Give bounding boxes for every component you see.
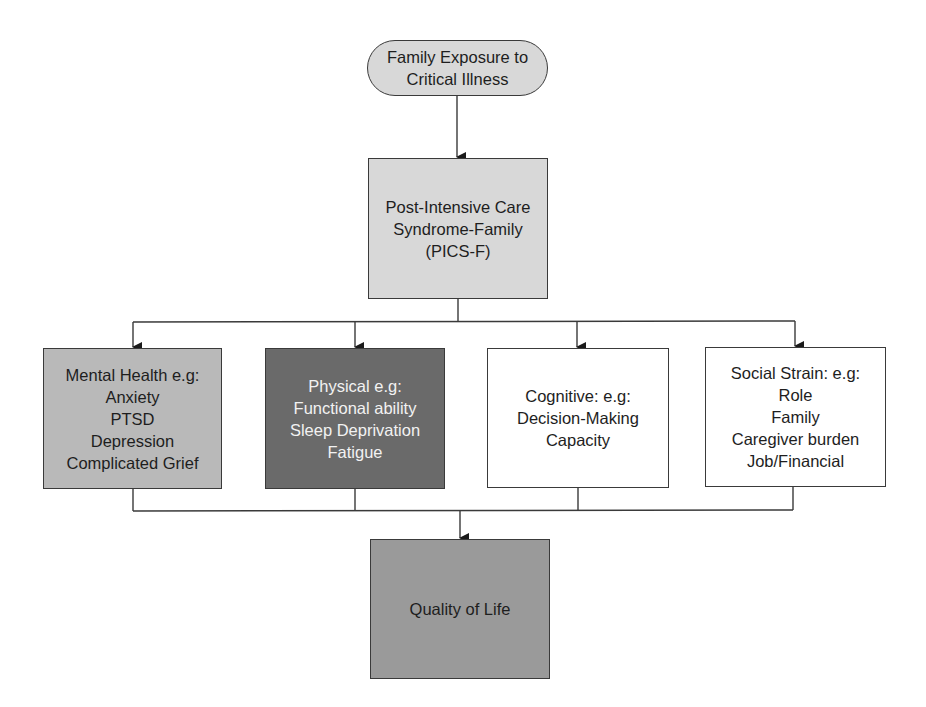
node-text: Role bbox=[779, 384, 813, 406]
node-text: Social Strain: e.g: bbox=[731, 362, 860, 384]
node-text: PTSD bbox=[110, 408, 154, 430]
node-text: Physical e.g: bbox=[308, 375, 402, 397]
node-text: Cognitive: e.g: bbox=[525, 385, 630, 407]
node-text: Sleep Deprivation bbox=[290, 419, 420, 441]
pics-f-node: Post-Intensive Care Syndrome-Family (PIC… bbox=[368, 158, 548, 299]
node-text: Family bbox=[771, 406, 820, 428]
physical-node: Physical e.g: Functional ability Sleep D… bbox=[265, 348, 445, 489]
node-text: Post-Intensive Care bbox=[386, 196, 531, 218]
node-text: Critical Illness bbox=[407, 68, 509, 90]
node-text: Caregiver burden bbox=[732, 428, 860, 450]
node-text: Syndrome-Family bbox=[393, 218, 522, 240]
quality-of-life-node: Quality of Life bbox=[370, 539, 550, 679]
node-text: Anxiety bbox=[105, 386, 159, 408]
social-strain-node: Social Strain: e.g: Role Family Caregive… bbox=[705, 347, 886, 487]
node-text: Complicated Grief bbox=[66, 452, 198, 474]
node-text: Decision-Making bbox=[517, 407, 639, 429]
node-text: Quality of Life bbox=[410, 598, 511, 620]
node-text: Capacity bbox=[546, 429, 610, 451]
node-text: Functional ability bbox=[294, 397, 417, 419]
mental-health-node: Mental Health e.g: Anxiety PTSD Depressi… bbox=[43, 348, 222, 489]
family-exposure-node: Family Exposure to Critical Illness bbox=[367, 40, 548, 96]
node-text: Family Exposure to bbox=[387, 46, 528, 68]
node-text: Mental Health e.g: bbox=[66, 364, 200, 386]
node-text: Fatigue bbox=[327, 441, 382, 463]
node-text: Job/Financial bbox=[747, 450, 844, 472]
node-text: (PICS-F) bbox=[425, 240, 490, 262]
cognitive-node: Cognitive: e.g: Decision-Making Capacity bbox=[487, 348, 669, 488]
node-text: Depression bbox=[91, 430, 174, 452]
